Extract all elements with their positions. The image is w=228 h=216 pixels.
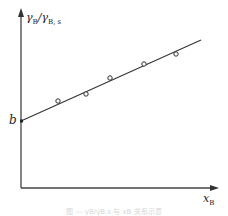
intercept-marker: [20, 120, 23, 123]
intercept-label: b: [9, 113, 17, 127]
data-point: [142, 62, 146, 66]
data-point: [174, 52, 178, 56]
y-axis-arrow-icon: [18, 8, 24, 17]
data-point: [108, 76, 112, 80]
chart-canvas: [0, 0, 228, 216]
y-axis-label: γB/γB, s: [26, 11, 61, 26]
data-point: [84, 92, 88, 96]
x-axis-label: xB: [203, 192, 214, 207]
figure-caption: 图 — γB/γB,s 与 xB 关系示意: [0, 206, 228, 216]
x-axis-arrow-icon: [210, 185, 219, 191]
data-point: [56, 99, 60, 103]
